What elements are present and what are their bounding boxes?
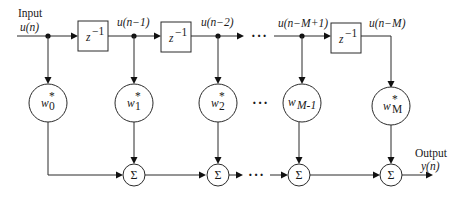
delay-ellipsis: ···: [251, 29, 268, 44]
weight-w-m: w * M: [372, 87, 410, 125]
svg-text:w: w: [211, 97, 219, 109]
fir-filter-diagram: Input u(n) ··· u(n−1) u(n−2) u(n−M+1) u(…: [0, 0, 460, 201]
summer-1: Σ: [123, 164, 145, 186]
arrow-head-icon: [215, 77, 222, 84]
svg-text:z: z: [168, 32, 174, 44]
svg-text:z: z: [338, 33, 344, 45]
svg-text:−1: −1: [345, 27, 357, 39]
arrow-head-icon: [131, 157, 138, 164]
arrow-head-icon: [215, 157, 222, 164]
svg-text:M-1: M-1: [296, 99, 316, 111]
svg-text:Σ: Σ: [215, 168, 222, 182]
tap-label-1: u(n−1): [117, 16, 150, 29]
svg-text:−1: −1: [175, 26, 187, 38]
svg-text:2: 2: [219, 100, 225, 112]
svg-text:Σ: Σ: [296, 168, 303, 182]
delay-box-3: z −1: [331, 23, 361, 53]
arrow-head-icon: [154, 33, 161, 40]
weight-ellipsis: ···: [252, 96, 269, 111]
output-label: Output: [415, 147, 448, 160]
svg-text:w: w: [41, 97, 49, 109]
arrow-head-icon: [373, 172, 380, 179]
arrow-head-icon: [281, 172, 288, 179]
weight-w-m-1: w M-1: [283, 84, 321, 122]
tap-label-m-1: u(n−M+1): [278, 17, 328, 30]
weight-w1: w * 1: [115, 84, 153, 122]
output-signal-label: y(n): [420, 160, 440, 173]
arrow-head-icon: [388, 157, 395, 164]
weight-w0: w * 0: [29, 84, 67, 122]
svg-text:w: w: [127, 97, 135, 109]
delay-box-1: z −1: [78, 21, 108, 51]
arrow-head-icon: [71, 33, 78, 40]
summer-3: Σ: [288, 164, 310, 186]
svg-text:w: w: [288, 96, 296, 108]
summer-ellipsis: ···: [248, 168, 265, 183]
summer-2: Σ: [207, 164, 229, 186]
arrow-head-icon: [45, 77, 52, 84]
svg-text:M: M: [392, 103, 402, 115]
arrow-head-icon: [237, 33, 244, 40]
summer-4: Σ: [380, 164, 402, 186]
arrow-head-icon: [296, 157, 303, 164]
input-label: Input: [18, 7, 43, 20]
svg-text:Σ: Σ: [131, 168, 138, 182]
svg-text:z: z: [85, 31, 91, 43]
svg-text:w: w: [383, 100, 391, 112]
arrow-head-icon: [199, 172, 206, 179]
arrow-head-icon: [116, 172, 123, 179]
arrow-head-icon: [324, 33, 331, 40]
svg-text:−1: −1: [92, 25, 104, 37]
arrow-head-icon: [299, 77, 306, 84]
arrow-head-icon: [236, 172, 243, 179]
output-arrow-icon: [426, 172, 433, 179]
tap-label-2: u(n−2): [201, 16, 234, 29]
svg-text:1: 1: [135, 100, 141, 112]
weight-w2: w * 2: [199, 84, 237, 122]
svg-text:0: 0: [49, 100, 55, 112]
tap-label-m: u(n−M): [369, 17, 406, 30]
arrow-head-icon: [131, 77, 138, 84]
delay-box-2: z −1: [161, 22, 191, 52]
input-signal-label: u(n): [20, 21, 39, 34]
svg-text:Σ: Σ: [388, 168, 395, 182]
